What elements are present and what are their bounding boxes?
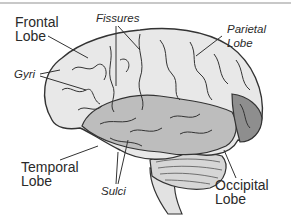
sulci-label: Sulci (101, 184, 126, 198)
gyri-label: Gyri (14, 67, 35, 81)
frontal-lobe-label: Frontal Lobe (15, 15, 59, 43)
temporal-lobe-label: Temporal Lobe (21, 160, 79, 188)
occipital-lobe-label: Occipital Lobe (215, 178, 269, 206)
parietal-lobe-label: Parietal Lobe (227, 22, 266, 50)
fissures-label: Fissures (96, 11, 139, 25)
